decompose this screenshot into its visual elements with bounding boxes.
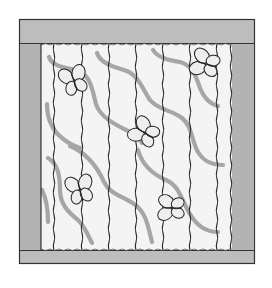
right-border <box>232 44 254 250</box>
left-border <box>20 44 41 250</box>
quilt-illustration <box>0 0 272 288</box>
